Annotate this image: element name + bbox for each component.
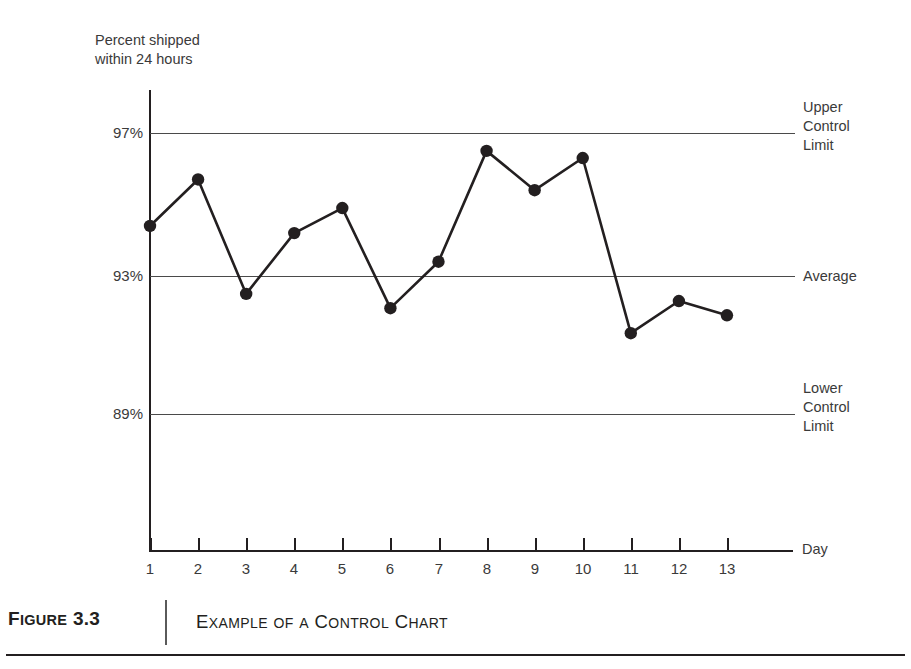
series-markers	[144, 145, 733, 340]
data-point-day-11	[625, 327, 637, 339]
figure-caption-title: EXAMPLE OF A CONTROL CHART	[196, 611, 448, 633]
data-point-day-9	[528, 184, 540, 196]
caption-word-lead: C	[315, 611, 329, 632]
caption-word-rest: ONTROL	[328, 615, 389, 631]
figure-label-lead: F	[8, 608, 20, 629]
data-point-day-7	[432, 256, 444, 268]
caption-word-lead: C	[395, 611, 409, 632]
figure-control-chart: Percent shippedwithin 24 hours 97% 93% 8…	[0, 0, 911, 669]
series-polyline	[150, 151, 727, 333]
caption-bottom-rule	[6, 654, 905, 656]
caption-word-rest: A	[299, 615, 309, 631]
data-point-day-8	[480, 145, 492, 157]
caption-word-lead: E	[196, 611, 209, 632]
caption-word-rest: HART	[408, 615, 447, 631]
caption-divider	[165, 600, 167, 645]
data-point-day-10	[577, 152, 589, 164]
data-point-day-3	[240, 288, 252, 300]
figure-label-rest: IGURE	[20, 612, 67, 628]
caption-word-rest: OF	[274, 615, 294, 631]
figure-number: 3.3	[73, 608, 100, 629]
data-point-day-5	[336, 202, 348, 214]
data-point-day-1	[144, 220, 156, 232]
data-point-day-2	[192, 173, 204, 185]
data-series-layer	[0, 0, 911, 669]
figure-number-label: FIGURE 3.3	[8, 608, 100, 630]
data-point-day-12	[673, 295, 685, 307]
data-point-day-6	[384, 302, 396, 314]
data-point-day-4	[288, 227, 300, 239]
data-point-day-13	[721, 309, 733, 321]
caption-word-rest: XAMPLE	[209, 615, 268, 631]
